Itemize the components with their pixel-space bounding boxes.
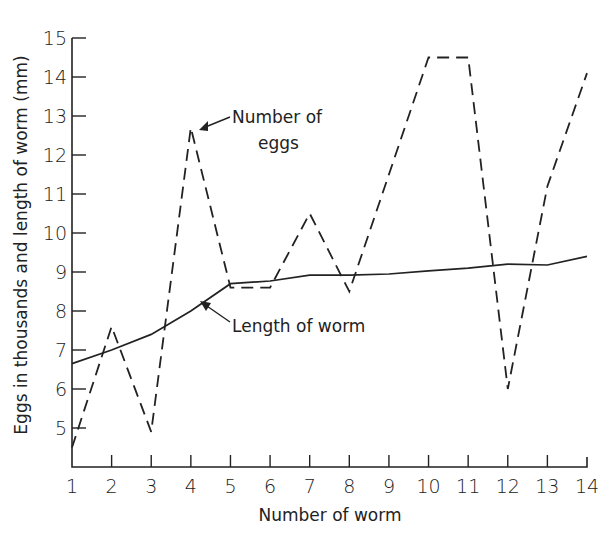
y-tick-label: 12 (43, 144, 67, 166)
y-tick-label: 5 (55, 417, 67, 439)
series-number-of-eggs (72, 58, 587, 448)
x-tick-label: 8 (343, 475, 355, 497)
x-tick-label: 2 (106, 475, 118, 497)
axes: 567891011121314151234567891011121314 (43, 27, 599, 497)
x-tick-label: 1 (66, 475, 78, 497)
x-tick-label: 5 (224, 475, 236, 497)
y-tick-label: 15 (43, 27, 67, 49)
y-tick-label: 10 (43, 222, 67, 244)
x-tick-label: 9 (383, 475, 395, 497)
x-tick-label: 14 (575, 475, 599, 497)
annotations-layer: Number of eggs Length of worm Number of … (11, 55, 402, 525)
x-tick-label: 10 (416, 475, 440, 497)
y-tick-label: 6 (55, 378, 67, 400)
x-tick-label: 13 (535, 475, 559, 497)
eggs-annotation-line1: Number of (232, 107, 323, 127)
x-tick-label: 12 (496, 475, 520, 497)
series-layer (72, 58, 587, 448)
x-tick-label: 3 (145, 475, 157, 497)
series-length-of-worm (72, 256, 587, 363)
length-arrowhead-icon (200, 301, 211, 311)
y-tick-label: 11 (43, 183, 67, 205)
y-axis-title: Eggs in thousands and length of worm (mm… (11, 55, 31, 434)
line-chart: 567891011121314151234567891011121314 Num… (0, 0, 610, 542)
x-tick-label: 4 (185, 475, 197, 497)
y-tick-label: 9 (55, 261, 67, 283)
y-tick-label: 13 (43, 105, 67, 127)
y-tick-label: 7 (55, 339, 67, 361)
y-tick-label: 14 (43, 66, 67, 88)
x-tick-label: 11 (456, 475, 480, 497)
y-tick-label: 8 (55, 300, 67, 322)
eggs-annotation-line2: eggs (258, 133, 299, 153)
x-tick-label: 7 (304, 475, 316, 497)
length-annotation: Length of worm (232, 316, 365, 336)
x-tick-label: 6 (264, 475, 276, 497)
eggs-arrowhead-icon (199, 121, 208, 131)
x-axis-title: Number of worm (258, 505, 401, 525)
